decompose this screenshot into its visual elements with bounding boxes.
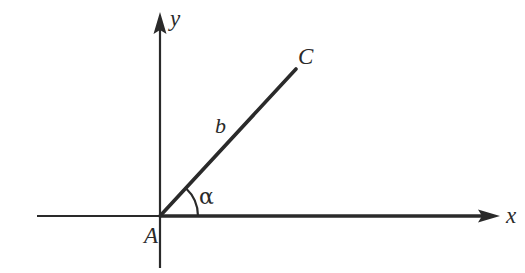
diagram-canvas bbox=[0, 0, 525, 273]
y-axis-label: y bbox=[170, 7, 180, 30]
geometry-figure: y x C b α A bbox=[0, 0, 525, 273]
angle-alpha-label: α bbox=[199, 186, 214, 208]
segment-ac bbox=[160, 69, 296, 216]
point-a-label: A bbox=[144, 224, 158, 247]
x-axis-label: x bbox=[506, 204, 516, 227]
side-b-label: b bbox=[215, 115, 226, 137]
point-c-label: C bbox=[298, 45, 313, 68]
angle-arc-alpha bbox=[186, 188, 198, 216]
